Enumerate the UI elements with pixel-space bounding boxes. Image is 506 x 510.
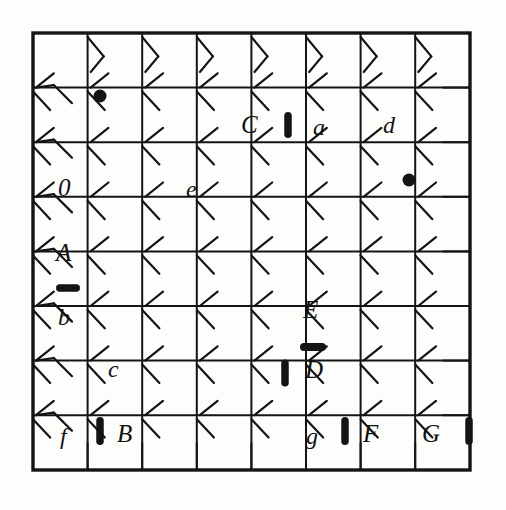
kink-down-right-r4-c0 xyxy=(33,310,50,328)
kink-up-right-r0-c1 xyxy=(91,73,109,87)
kink-down-right-r5-c3 xyxy=(197,365,214,383)
kink-up-right-r4-c7 xyxy=(418,292,436,306)
kink-down-right-r3-c1 xyxy=(88,255,105,273)
kink-down-right-r3-c6 xyxy=(361,255,378,273)
kink-down-right-r5-c6 xyxy=(361,365,378,383)
kink-up-right-r3-c7 xyxy=(418,237,436,251)
bar-B xyxy=(96,417,104,445)
figure-label-f: f xyxy=(60,424,67,448)
kink-up-right-r6-c4 xyxy=(254,401,272,415)
kink-top-tail-c3 xyxy=(255,56,268,72)
kink-top-tail-c1 xyxy=(145,56,158,72)
figure-label-0: 0 xyxy=(58,175,71,200)
kink-up-right-r2-c3 xyxy=(200,183,218,197)
node-dot-near-d xyxy=(403,174,416,187)
kink-top-c3 xyxy=(251,37,267,56)
kink-up-right-r2-c2 xyxy=(145,183,163,197)
kink-top-c0 xyxy=(88,37,104,56)
figure-label-E: E xyxy=(303,297,318,322)
bar-F xyxy=(341,417,349,445)
kink-up-right-r2-c1 xyxy=(91,183,109,197)
kink-down-right-r6-c4 xyxy=(251,419,268,437)
kink-top-tail-c5 xyxy=(364,56,377,72)
kink-top-tail-c6 xyxy=(418,56,431,72)
kink-down-right-r3-c3 xyxy=(197,255,214,273)
kink-up-right-r1-c3 xyxy=(200,128,218,142)
kink-down-right-r4-c7 xyxy=(415,310,432,328)
kink-down-right-r2-c6 xyxy=(361,201,378,219)
kink-down-right-r2-c3 xyxy=(197,201,214,219)
kink-down-right-r1-c2 xyxy=(142,146,159,164)
kink-up-right-r4-c1 xyxy=(91,292,109,306)
figure-label-g: g xyxy=(306,424,318,448)
bar-a xyxy=(284,112,292,138)
kink-top-c4 xyxy=(306,37,322,56)
kink-up-right-r5-c1 xyxy=(91,346,109,360)
kink-down-right-r4-c2 xyxy=(142,310,159,328)
kink-up-right-r0-c7 xyxy=(418,73,436,87)
kink-top-c1 xyxy=(142,37,158,56)
kink-top-tail-c2 xyxy=(200,56,213,72)
kink-down-right-r4-c1 xyxy=(88,310,105,328)
kink-up-right-r3-c6 xyxy=(364,237,382,251)
kink-up-right-r1-c6 xyxy=(364,128,382,142)
figure-label-F: F xyxy=(363,421,378,446)
kink-down-right-r2-c1 xyxy=(88,201,105,219)
kink-up-right-r4-c2 xyxy=(145,292,163,306)
kink-up-right-r6-c7 xyxy=(418,401,436,415)
kink-up-right-r1-c7 xyxy=(418,128,436,142)
kink-down-right-r6-c3 xyxy=(197,419,214,437)
kink-up-right-r2-c7 xyxy=(418,183,436,197)
kink-top-c6 xyxy=(415,37,431,56)
kink-down-right-r2-c7 xyxy=(415,201,432,219)
kink-down-right-r2-c2 xyxy=(142,201,159,219)
kink-up-right-r5-c3 xyxy=(200,346,218,360)
kink-up-right-r5-c6 xyxy=(364,346,382,360)
kink-up-right-r3-c5 xyxy=(309,237,327,251)
node-dot-upper-left xyxy=(94,90,107,103)
figure-label-a: a xyxy=(313,115,325,139)
kink-up-right-r6-c3 xyxy=(200,401,218,415)
kink-up-right-r3-c4 xyxy=(254,237,272,251)
kink-down-right-r1-c1 xyxy=(88,146,105,164)
kink-up-right-r2-c6 xyxy=(364,183,382,197)
figure-label-G: G xyxy=(422,421,440,446)
bar-right-edge xyxy=(465,417,473,445)
bar-D-horizontal xyxy=(300,343,326,351)
kink-up-right-r0-c6 xyxy=(364,73,382,87)
figure-label-A: A xyxy=(56,240,71,265)
kink-down-right-r1-c6 xyxy=(361,146,378,164)
kink-up-right-r0-c5 xyxy=(309,73,327,87)
figure-label-d: d xyxy=(383,113,395,137)
kink-down-right-r1-c4 xyxy=(251,146,268,164)
kink-down-right-r0-c3 xyxy=(197,92,214,110)
kink-down-right-r1-c5 xyxy=(306,146,323,164)
kink-up-right-r5-c2 xyxy=(145,346,163,360)
kink-up-right-r1-c1 xyxy=(91,128,109,142)
kink-up-right-r6-c2 xyxy=(145,401,163,415)
kink-down-right-r0-c0 xyxy=(33,92,50,110)
kink-down-right-r6-c0 xyxy=(33,419,50,437)
figure-label-C: C xyxy=(241,112,258,137)
kink-down-right-r5-c4 xyxy=(251,365,268,383)
kink-down-right-r4-c3 xyxy=(197,310,214,328)
figure-container: Cad0eAbEcDfBgFG xyxy=(0,0,506,510)
kink-up-right-r2-c5 xyxy=(309,183,327,197)
kink-down-right-r2-c0 xyxy=(33,201,50,219)
kink-up-right-r0-c3 xyxy=(200,73,218,87)
kink-up-right-r1-c2 xyxy=(145,128,163,142)
kink-down-right-r2-c5 xyxy=(306,201,323,219)
kink-top-tail-c0 xyxy=(91,56,104,72)
bar-D-vertical xyxy=(281,360,289,387)
kink-down-right-r0-c6 xyxy=(361,92,378,110)
figure-label-e: e xyxy=(186,177,197,201)
kink-down-right-r3-c7 xyxy=(415,255,432,273)
kink-up-right-r6-c6 xyxy=(364,401,382,415)
kink-top-c5 xyxy=(361,37,377,56)
kink-down-right-r4-c6 xyxy=(361,310,378,328)
kink-up-right-r3-c2 xyxy=(145,237,163,251)
kink-up-right-r3-c3 xyxy=(200,237,218,251)
kink-down-right-r3-c0 xyxy=(33,255,50,273)
kink-down-right-r5-c0 xyxy=(33,365,50,383)
kink-up-right-r4-c6 xyxy=(364,292,382,306)
